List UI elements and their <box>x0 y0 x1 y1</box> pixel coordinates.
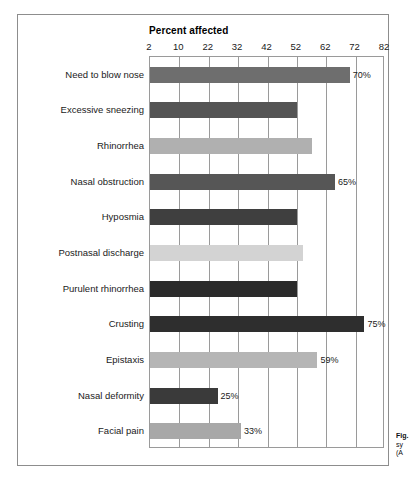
x-tick-label-82: 82 <box>379 41 390 52</box>
bar-rows: 70%65%75%59%25%33% <box>150 57 383 447</box>
bar-row <box>150 245 383 261</box>
x-tick-label-10: 10 <box>173 41 184 52</box>
figure-caption: Fig.sy(A <box>396 432 416 458</box>
bar <box>150 102 297 118</box>
bar <box>150 138 312 154</box>
bar-value-label: 75% <box>364 319 385 329</box>
x-tick-label-22: 22 <box>202 41 213 52</box>
figure-container: Percent affected 21022324252627282 70%65… <box>0 0 416 482</box>
bar <box>150 352 317 368</box>
bar <box>150 67 350 83</box>
x-tick-label-32: 32 <box>232 41 243 52</box>
bar-value-label: 59% <box>317 355 338 365</box>
category-label: Excessive sneezing <box>61 104 144 115</box>
bar-row: 59% <box>150 352 383 368</box>
x-tick-label-52: 52 <box>291 41 302 52</box>
category-label: Postnasal discharge <box>58 247 144 258</box>
x-tick-label-62: 62 <box>320 41 331 52</box>
x-tick-label-72: 72 <box>349 41 360 52</box>
x-axis-tick-labels: 21022324252627282 <box>0 41 416 55</box>
category-label: Need to blow nose <box>65 68 144 79</box>
bar-row: 25% <box>150 388 383 404</box>
bar-row <box>150 209 383 225</box>
bar-row <box>150 102 383 118</box>
caption-line: sy <box>396 441 416 450</box>
category-label: Crusting <box>109 318 144 329</box>
bar-row: 33% <box>150 423 383 439</box>
bar <box>150 174 335 190</box>
category-label: Nasal deformity <box>78 389 144 400</box>
bar-value-label: 70% <box>350 70 371 80</box>
bar-value-label: 25% <box>218 391 239 401</box>
bar-value-label: 33% <box>241 426 262 436</box>
chart-title: Percent affected <box>149 25 228 36</box>
category-label: Purulent rhinorrhea <box>63 282 144 293</box>
caption-line: Fig. <box>396 432 416 441</box>
caption-line: (A <box>396 449 416 458</box>
bar-row: 65% <box>150 174 383 190</box>
category-label: Nasal obstruction <box>71 175 144 186</box>
bar-row: 75% <box>150 316 383 332</box>
category-label: Hyposmia <box>102 211 144 222</box>
bar <box>150 316 364 332</box>
bar <box>150 388 218 404</box>
category-label: Epistaxis <box>106 353 144 364</box>
bar-row <box>150 138 383 154</box>
bar <box>150 245 303 261</box>
category-axis-labels: Need to blow noseExcessive sneezingRhino… <box>20 56 144 448</box>
bar <box>150 209 297 225</box>
category-label: Facial pain <box>98 425 144 436</box>
bar-value-label: 65% <box>335 177 356 187</box>
x-tick-label-2: 2 <box>146 41 151 52</box>
bar-row <box>150 281 383 297</box>
x-tick-label-42: 42 <box>261 41 272 52</box>
bar <box>150 423 241 439</box>
plot-area: 70%65%75%59%25%33% <box>149 56 384 448</box>
bar-row: 70% <box>150 67 383 83</box>
bar <box>150 281 297 297</box>
category-label: Rhinorrhea <box>97 140 144 151</box>
